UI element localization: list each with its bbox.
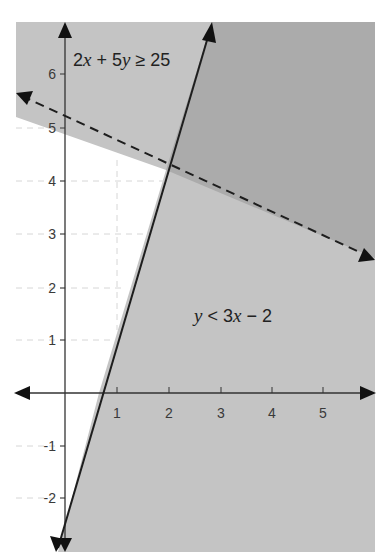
y-tick-3: 3 (48, 226, 56, 242)
inequality-label-1: 2x + 5y ≥ 25 (73, 49, 170, 70)
x-tick-1: 1 (113, 405, 121, 421)
x-tick-2: 2 (165, 405, 173, 421)
x-tick-3: 3 (217, 405, 225, 421)
y-tick-minus-2: -2 (44, 490, 57, 506)
inequality-label-2: y < 3x − 2 (192, 305, 272, 326)
x-tick-4: 4 (268, 405, 276, 421)
y-tick-5: 5 (48, 120, 56, 136)
y-tick-2: 2 (48, 280, 56, 296)
x-tick-5: 5 (319, 405, 327, 421)
y-tick-4: 4 (48, 173, 56, 189)
y-tick-1: 1 (48, 332, 56, 348)
inequality-graph: 1 2 3 4 5 6 5 4 3 2 1 -1 -2 2x + 5y ≥ 25… (0, 0, 384, 557)
y-tick-minus-1: -1 (44, 438, 57, 454)
y-tick-6: 6 (48, 66, 56, 82)
